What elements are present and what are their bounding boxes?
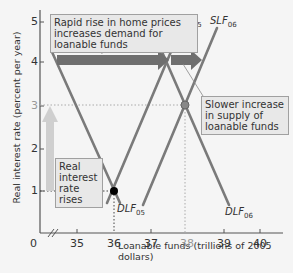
x-tick-40: 40 bbox=[253, 237, 267, 250]
origin-label: 0 bbox=[30, 237, 37, 250]
equilibrium-2006-point bbox=[181, 101, 189, 109]
supply-shift-arrow bbox=[171, 50, 202, 70]
x-tick-38: 38 bbox=[180, 237, 194, 250]
y-tick-3: 3 bbox=[31, 99, 38, 112]
y-axis-label: Real interest rate (percent per year) bbox=[11, 18, 22, 218]
x-tick-36: 36 bbox=[107, 237, 121, 250]
y-tick-1: 1 bbox=[31, 184, 38, 197]
demand-callout: Rapid rise in home prices increases dema… bbox=[50, 14, 198, 53]
equilibrium-2005-point bbox=[110, 187, 118, 195]
x-tick-39: 39 bbox=[217, 237, 231, 250]
dlf05-label: DLF05 bbox=[117, 203, 145, 217]
y-tick-2: 2 bbox=[31, 142, 38, 155]
slf05-curve bbox=[107, 28, 181, 203]
x-tick-35: 35 bbox=[70, 237, 84, 250]
demand-shift-arrow bbox=[57, 50, 169, 70]
rate-rise-callout: Real interest rate rises bbox=[55, 158, 103, 208]
y-tick-4: 4 bbox=[31, 55, 38, 68]
dlf06-label: DLF06 bbox=[225, 206, 253, 220]
slf06-label: SLF06 bbox=[210, 15, 237, 29]
x-tick-37: 37 bbox=[144, 237, 158, 250]
y-tick-5: 5 bbox=[31, 15, 38, 28]
supply-callout: Slower increase in supply of loanable fu… bbox=[201, 96, 289, 135]
